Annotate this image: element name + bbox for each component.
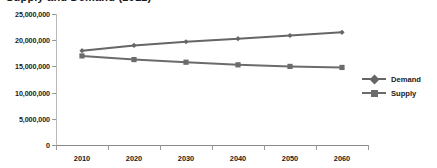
y-tick-label: 10,000,000 <box>15 88 50 97</box>
x-tick-label: 2060 <box>334 154 350 163</box>
x-tick-mark <box>264 145 265 150</box>
x-tick-mark <box>56 145 57 150</box>
diamond-marker-icon <box>183 39 188 44</box>
series-line-demand <box>82 32 342 50</box>
legend-label-demand: Demand <box>391 75 421 84</box>
x-tick-mark <box>368 145 369 150</box>
square-marker-icon <box>183 60 188 65</box>
y-tick-label: 20,000,000 <box>15 36 50 45</box>
series-line-supply <box>82 56 342 68</box>
diamond-marker-icon <box>79 48 84 53</box>
y-tick-label: 25,000,000 <box>15 10 50 19</box>
y-tick-label: 0 <box>46 141 50 150</box>
x-tick-mark <box>108 145 109 150</box>
legend-item-supply[interactable]: Supply <box>362 86 437 100</box>
chart-title: Supply and Demand (2012) <box>6 0 151 3</box>
series-container <box>56 14 368 145</box>
legend-label-supply: Supply <box>391 89 416 98</box>
plot-area: 05,000,00010,000,00015,000,00020,000,000… <box>56 14 368 145</box>
x-tick-label: 2020 <box>126 154 142 163</box>
x-tick-mark <box>316 145 317 150</box>
chart-legend: Demand Supply <box>362 72 437 100</box>
legend-swatch-supply <box>362 88 386 98</box>
x-tick-label: 2040 <box>230 154 246 163</box>
square-marker-icon <box>79 53 84 58</box>
square-marker-icon <box>287 64 292 69</box>
square-marker-icon <box>131 57 136 62</box>
x-tick-label: 2010 <box>74 154 90 163</box>
legend-item-demand[interactable]: Demand <box>362 72 437 86</box>
diamond-marker-icon <box>287 33 292 38</box>
diamond-marker-icon <box>370 74 380 84</box>
legend-swatch-demand <box>362 74 386 84</box>
square-marker-icon <box>339 65 344 70</box>
y-tick-label: 5,000,000 <box>19 114 50 123</box>
square-marker-icon <box>235 62 240 67</box>
line-chart: Supply and Demand (2012) 05,000,00010,00… <box>0 0 437 168</box>
diamond-marker-icon <box>339 30 344 35</box>
x-tick-label: 2030 <box>178 154 194 163</box>
series-supply <box>79 53 344 70</box>
square-marker-icon <box>371 90 378 97</box>
x-tick-mark <box>212 145 213 150</box>
x-tick-mark <box>160 145 161 150</box>
diamond-marker-icon <box>131 43 136 48</box>
series-demand <box>79 30 344 54</box>
y-tick-label: 15,000,000 <box>15 62 50 71</box>
x-tick-label: 2050 <box>282 154 298 163</box>
diamond-marker-icon <box>235 36 240 41</box>
